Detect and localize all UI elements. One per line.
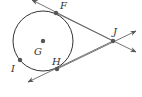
label-f: F — [59, 0, 68, 11]
label-g: G — [34, 46, 42, 57]
diagram: F G H I J — [0, 0, 142, 97]
tangent-line-jh-ext — [57, 31, 136, 69]
point-h — [55, 67, 59, 71]
point-f — [54, 11, 58, 15]
point-g — [41, 39, 45, 43]
label-h: H — [51, 56, 61, 67]
point-i — [18, 58, 22, 62]
label-i: I — [10, 63, 16, 74]
geometry-figure: F G H I J — [0, 0, 142, 97]
tangent-line-jf-ext — [56, 13, 136, 52]
point-j — [111, 39, 115, 43]
label-j: J — [111, 26, 118, 37]
